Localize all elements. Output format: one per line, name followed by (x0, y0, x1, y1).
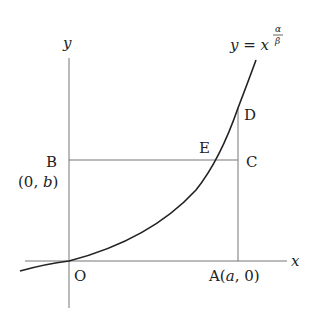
exponent-denominator: β (274, 36, 280, 46)
point-e-label: E (199, 139, 210, 157)
function-label: y = x (229, 36, 270, 54)
exponent-numerator: α (275, 24, 281, 34)
point-b-label: B (46, 153, 57, 171)
point-a-label: A(a, 0) (208, 267, 260, 285)
power-function-diagram: y x O A(a, 0) B (0, b) C D E y = x α β (0, 0, 320, 331)
origin-label: O (74, 267, 86, 285)
y-axis-label: y (62, 34, 72, 52)
point-d-label: D (244, 106, 256, 124)
point-b-coords: (0, b) (18, 173, 58, 191)
point-c-label: C (246, 153, 257, 171)
x-axis-label: x (291, 252, 300, 270)
